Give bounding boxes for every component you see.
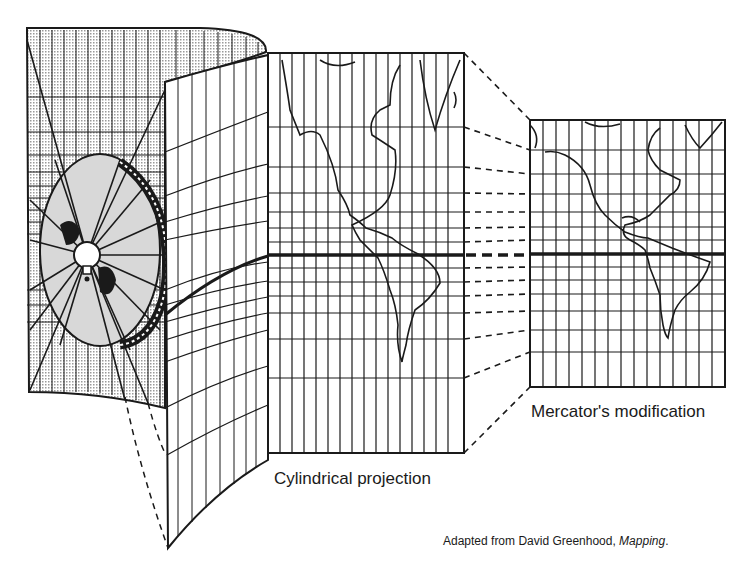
mercator-modification-label: Mercator's modification (531, 402, 705, 422)
cylindrical-projection-label: Cylindrical projection (274, 469, 431, 489)
credit-prefix: Adapted from David Greenhood, (443, 534, 619, 548)
credit-book-title: Mapping (619, 534, 665, 548)
mercator-map (530, 120, 725, 387)
dashed-connectors-cylinder (125, 397, 168, 548)
curved-sheet (165, 55, 268, 548)
source-credit: Adapted from David Greenhood, Mapping. (443, 534, 668, 548)
dashed-connectors-maps (464, 53, 530, 453)
credit-suffix: . (665, 534, 668, 548)
cylindrical-projection-map (268, 53, 464, 453)
